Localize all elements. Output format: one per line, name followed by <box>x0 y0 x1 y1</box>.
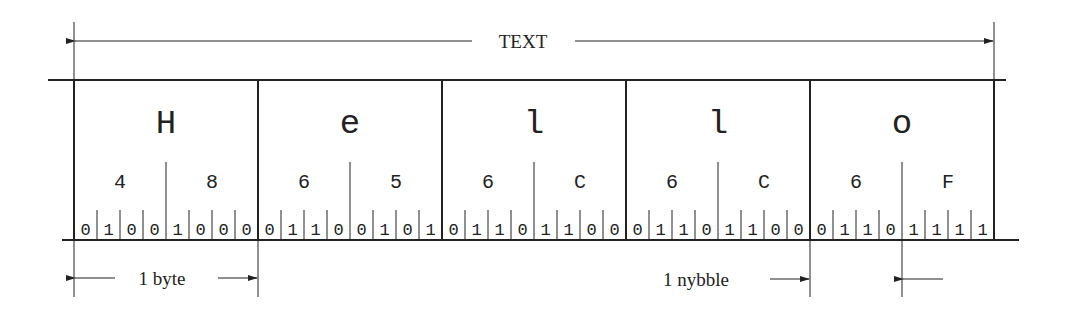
nybble-hex: 8 <box>206 171 218 194</box>
bit-value: 0 <box>126 221 136 240</box>
bit-value: 0 <box>195 221 205 240</box>
byte-cell: l6C01101100 <box>626 80 804 240</box>
nybble-hex: 6 <box>482 171 494 194</box>
bit-value: 1 <box>655 221 665 240</box>
nybble-hex: F <box>942 171 954 194</box>
nybble-label: 1 nybble <box>663 269 729 290</box>
nybble-hex: 6 <box>850 171 862 194</box>
text-label: TEXT <box>499 31 548 52</box>
bit-value: 0 <box>149 221 159 240</box>
bit-value: 0 <box>264 221 274 240</box>
byte-char: l <box>524 105 544 143</box>
bit-value: 1 <box>471 221 481 240</box>
byte-cell: e6501100101 <box>258 80 436 240</box>
bit-value: 1 <box>172 221 182 240</box>
bit-value: 1 <box>977 221 987 240</box>
bit-value: 1 <box>287 221 297 240</box>
bit-value: 0 <box>632 221 642 240</box>
bit-value: 0 <box>402 221 412 240</box>
bit-value: 0 <box>448 221 458 240</box>
nybble-hex: 6 <box>298 171 310 194</box>
bit-value: 1 <box>540 221 550 240</box>
byte-dimension: 1 byte <box>74 240 258 297</box>
bit-value: 0 <box>356 221 366 240</box>
bit-value: 0 <box>885 221 895 240</box>
nybble-hex: 6 <box>666 171 678 194</box>
bit-value: 0 <box>701 221 711 240</box>
bit-value: 0 <box>333 221 343 240</box>
bit-value: 0 <box>609 221 619 240</box>
bit-value: 1 <box>103 221 113 240</box>
bit-value: 1 <box>494 221 504 240</box>
nybble-hex: C <box>574 171 586 194</box>
byte-cell: H4801001000 <box>74 80 252 240</box>
byte-char: H <box>156 105 176 143</box>
bit-value: 1 <box>954 221 964 240</box>
bytes-row: H4801001000e6501100101l6C01101100l6C0110… <box>74 80 994 240</box>
byte-label: 1 byte <box>139 268 186 289</box>
byte-char: e <box>340 105 360 143</box>
bit-value: 1 <box>931 221 941 240</box>
nybble-hex: 5 <box>390 171 402 194</box>
bit-value: 1 <box>724 221 734 240</box>
bit-value: 0 <box>816 221 826 240</box>
text-span-dimension: TEXT <box>74 22 994 80</box>
bit-value: 0 <box>793 221 803 240</box>
bit-value: 0 <box>218 221 228 240</box>
bit-value: 1 <box>839 221 849 240</box>
bit-value: 1 <box>563 221 573 240</box>
bit-value: 0 <box>586 221 596 240</box>
nybble-hex: 4 <box>114 171 126 194</box>
nybble-dimension: 1 nybble <box>663 240 943 297</box>
bit-value: 0 <box>517 221 527 240</box>
bit-value: 1 <box>379 221 389 240</box>
byte-char: o <box>892 105 912 143</box>
byte-char: l <box>708 105 728 143</box>
nybble-hex: C <box>758 171 770 194</box>
byte-cell: l6C01101100 <box>442 80 620 240</box>
bit-value: 1 <box>678 221 688 240</box>
bit-value: 0 <box>80 221 90 240</box>
hello-byte-diagram: TEXT H4801001000e6501100101l6C01101100l6… <box>0 0 1069 312</box>
byte-cell: o6F01101111 <box>810 80 994 240</box>
bit-value: 1 <box>747 221 757 240</box>
bit-value: 1 <box>908 221 918 240</box>
bit-value: 1 <box>862 221 872 240</box>
bit-value: 0 <box>770 221 780 240</box>
bit-value: 0 <box>241 221 251 240</box>
bit-value: 1 <box>425 221 435 240</box>
bit-value: 1 <box>310 221 320 240</box>
